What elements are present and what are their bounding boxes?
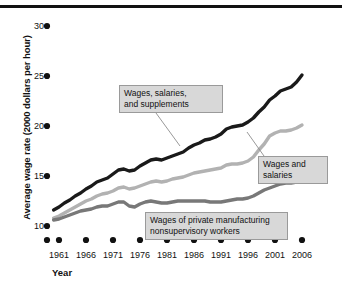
y-axis-dot-markers <box>44 23 50 229</box>
wage-rate-line-chart: Average wage rate (2000 dollars per hour… <box>0 0 342 283</box>
annotation-leader-lines <box>156 113 264 156</box>
annotation-wages-and-salaries: Wages and salaries <box>258 156 328 184</box>
plot-area <box>0 0 342 283</box>
annotation-wages-salaries-supplements: Wages, salaries, and supplements <box>119 85 223 113</box>
annotation-wages-private-manufacturing: Wages of private manufacturing nonsuperv… <box>145 212 288 240</box>
leader-wages-salaries-supplements <box>156 113 180 146</box>
